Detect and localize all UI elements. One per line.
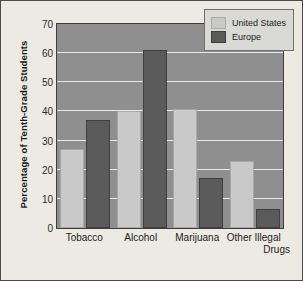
bar-other-illegal-drugs-europe: [256, 209, 280, 228]
y-tick-label-70: 70: [31, 19, 53, 30]
bar-tobacco-europe: [86, 120, 110, 228]
x-axis-category-labels: TobaccoAlcoholMarijuanaOther IllegalDrug…: [56, 232, 284, 272]
bar-tobacco-united-states: [60, 149, 84, 228]
y-tick-label-10: 10: [31, 193, 53, 204]
bar-alcohol-europe: [143, 50, 167, 228]
plot-area: [56, 23, 284, 229]
y-tick-label-20: 20: [31, 164, 53, 175]
legend-label-europe: Europe: [232, 32, 261, 42]
chart-figure: Percentage of Tenth-Grade Students 70605…: [0, 0, 303, 281]
bar-marijuana-europe: [199, 178, 223, 228]
bar-alcohol-united-states: [117, 111, 141, 228]
y-tick-label-40: 40: [31, 106, 53, 117]
y-tick-label-60: 60: [31, 48, 53, 59]
gridline-50: [57, 81, 283, 82]
gridline-40: [57, 110, 283, 111]
legend-swatch-europe: [211, 31, 226, 43]
y-axis-tick-labels: 706050403020100: [29, 23, 53, 229]
bar-marijuana-united-states: [173, 109, 197, 228]
y-axis-title: Percentage of Tenth-Grade Students: [18, 25, 29, 225]
bar-other-illegal-drugs-united-states: [230, 161, 254, 228]
legend-label-united-states: United States: [232, 18, 286, 28]
gridline-60: [57, 52, 283, 53]
legend-item-united-states: United States: [211, 17, 286, 29]
legend-item-europe: Europe: [211, 31, 286, 43]
y-tick-label-50: 50: [31, 77, 53, 88]
legend-swatch-united-states: [211, 17, 226, 29]
y-tick-label-30: 30: [31, 135, 53, 146]
x-tick-label-other-illegal-drugs: Other IllegalDrugs: [218, 232, 291, 256]
chart-legend: United States Europe: [204, 9, 294, 51]
